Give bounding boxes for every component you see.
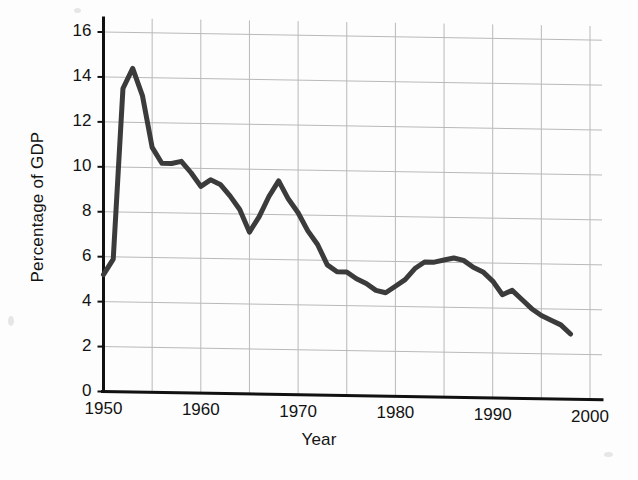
series-line-0 <box>104 68 571 334</box>
x-tick-label: 2000 <box>555 407 625 427</box>
chart-figure: 0246810121416 195019601970198019902000 P… <box>0 0 638 480</box>
y-axis-title: Percentage of GDP <box>28 107 48 307</box>
axis-lines <box>103 18 603 400</box>
y-tick-label: 6 <box>52 246 92 266</box>
y-tick-label: 8 <box>52 201 92 221</box>
y-tick-label: 10 <box>52 156 92 176</box>
vertical-gridlines <box>152 19 590 400</box>
x-axis-title: Year <box>0 430 638 450</box>
y-tick-label: 12 <box>52 111 92 131</box>
y-tick-label: 2 <box>52 336 92 356</box>
x-tick-label: 1980 <box>360 403 430 423</box>
x-tick-label: 1960 <box>166 400 236 420</box>
data-series-group <box>104 68 571 334</box>
x-tick-label: 1990 <box>458 405 528 425</box>
y-tick-label: 16 <box>52 21 92 41</box>
x-tick-label: 1970 <box>263 402 333 422</box>
y-tick-label: 14 <box>52 66 92 86</box>
y-tick-label: 4 <box>52 291 92 311</box>
y-tick-label: 0 <box>52 381 92 401</box>
x-tick-label: 1950 <box>69 399 139 419</box>
